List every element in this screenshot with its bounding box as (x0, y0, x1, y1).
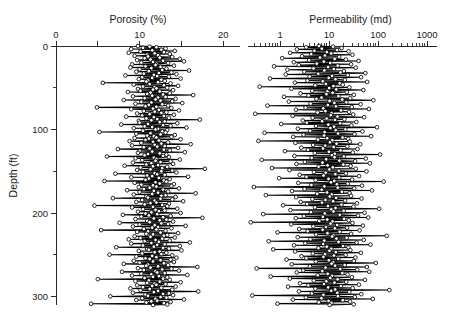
porosity-point (148, 82, 152, 86)
porosity-point (136, 210, 140, 214)
permeability-point (297, 290, 301, 294)
permeability-point (338, 267, 342, 271)
permeability-point (328, 249, 332, 253)
porosity-point (170, 135, 174, 139)
porosity-point (138, 67, 142, 71)
permeability-point (267, 239, 271, 243)
labels-layer: 0100200300Depth (ft)01020Porosity (%)110… (7, 13, 438, 302)
porosity-point (170, 226, 174, 230)
porosity-point (140, 252, 144, 256)
porosity-point (172, 113, 176, 117)
permeability-point (388, 288, 392, 292)
porosity-point (145, 281, 149, 285)
permeability-point (293, 250, 297, 254)
porosity-point (158, 280, 162, 284)
porosity-point (188, 241, 192, 245)
permeability-point (311, 143, 315, 147)
permeability-point (322, 255, 326, 259)
porosity-point (163, 209, 167, 213)
permeability-point (328, 195, 332, 199)
permeability-point (312, 279, 316, 283)
permeability-point (325, 136, 329, 140)
porosity-point (166, 263, 170, 267)
porosity-point (160, 268, 164, 272)
permeability-point (306, 229, 310, 233)
porosity-point (159, 295, 163, 299)
porosity-point (134, 200, 138, 204)
porosity-point (162, 114, 166, 118)
permeability-point (326, 65, 330, 69)
porosity-point (175, 121, 179, 125)
porosity-point (185, 273, 189, 277)
porosity-point (171, 293, 175, 297)
porosity-point (149, 168, 153, 172)
porosity-point (170, 267, 174, 271)
permeability-point (333, 155, 337, 159)
porosity-point (159, 197, 163, 201)
porosity-point (139, 272, 143, 276)
y-axis-title: Depth (ft) (7, 154, 19, 198)
permeability-point (313, 49, 317, 53)
permeability-point (303, 187, 307, 191)
permeability-point (361, 130, 365, 134)
permeability-point (324, 198, 328, 202)
permeability-point (342, 209, 346, 213)
porosity-point (142, 187, 146, 191)
porosity-point (179, 77, 183, 81)
porosity-point (118, 221, 122, 225)
permeability-point (320, 47, 324, 51)
porosity-point (142, 109, 146, 113)
permeability-point (339, 284, 343, 288)
porosity-point (164, 282, 168, 286)
permeability-point (313, 151, 317, 155)
porosity-point (109, 295, 113, 299)
permeability-point (337, 169, 341, 173)
permeability-point (340, 98, 344, 102)
permeability-point (305, 121, 309, 125)
porosity-point (150, 118, 154, 122)
permeability-point (328, 303, 332, 307)
porosity-point (134, 132, 138, 136)
permeability-point (320, 269, 324, 273)
porosity-point (162, 261, 166, 265)
porosity-point (176, 146, 180, 150)
porosity-point (161, 277, 165, 281)
porosity-point (151, 260, 155, 264)
permeability-point (297, 227, 301, 231)
permeability-point (321, 242, 325, 246)
permeability-point (352, 93, 356, 97)
porosity-point (155, 283, 159, 287)
porosity-point (140, 296, 144, 300)
porosity-point (155, 145, 159, 149)
permeability-point (314, 124, 318, 128)
porosity-point (175, 207, 179, 211)
permeability-point (336, 115, 340, 119)
permeability-point (324, 157, 328, 161)
porosity-point (134, 255, 138, 259)
porosity-point (124, 115, 128, 119)
porosity-point (133, 136, 137, 140)
porosity-point (132, 259, 136, 263)
permeability-point (292, 60, 296, 64)
porosity-point (133, 54, 137, 58)
permeability-point (352, 187, 356, 191)
porosity-point (143, 125, 147, 129)
permeability-point (369, 134, 373, 138)
permeability-point (283, 149, 287, 153)
porosity-point (159, 258, 163, 262)
porosity-point (178, 158, 182, 162)
porosity-point (105, 155, 109, 159)
porosity-point (185, 126, 189, 130)
porosity-point (160, 222, 164, 226)
porosity-point (136, 266, 140, 270)
permeability-point (332, 210, 336, 214)
permeability-point (276, 302, 280, 306)
porosity-point (128, 139, 132, 143)
porosity-point (160, 102, 164, 106)
permeability-point (338, 159, 342, 163)
porosity-point (163, 173, 167, 177)
porosity-point (157, 176, 161, 180)
permeability-point (385, 234, 389, 238)
permeability-point (288, 168, 292, 172)
permeability-point (323, 185, 327, 189)
